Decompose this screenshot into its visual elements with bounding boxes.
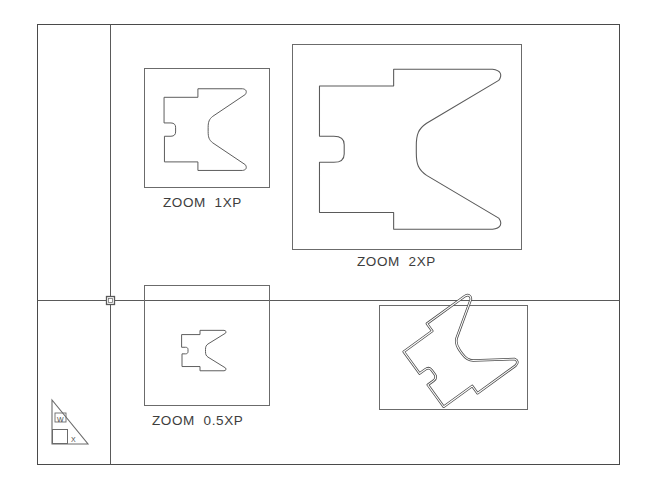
viewport-05xp-content bbox=[182, 330, 226, 370]
world-ucs-icon: W X bbox=[52, 400, 88, 444]
drawing-canvas: W X bbox=[0, 0, 650, 501]
construction-lines bbox=[38, 25, 620, 465]
viewport-rotated[interactable] bbox=[380, 294, 528, 414]
cad-drawing-area[interactable]: W X bbox=[0, 0, 650, 501]
viewport-05xp-label: ZOOM 0.5XP bbox=[152, 413, 243, 428]
viewport-1xp-content bbox=[164, 89, 246, 171]
viewport-2xp[interactable] bbox=[293, 45, 522, 250]
viewport-2xp-content bbox=[319, 69, 500, 229]
viewport-05xp[interactable] bbox=[145, 286, 270, 406]
sheet-border bbox=[38, 25, 620, 465]
viewport-1xp-frame[interactable] bbox=[145, 69, 270, 188]
ucs-origin-marker[interactable] bbox=[107, 297, 115, 305]
viewport-rotated-content bbox=[398, 294, 518, 414]
viewport-1xp-label: ZOOM 1XP bbox=[163, 195, 242, 210]
viewport-2xp-frame[interactable] bbox=[293, 45, 522, 250]
ucs-x-label: X bbox=[71, 436, 76, 443]
viewport-rotated-frame[interactable] bbox=[380, 306, 528, 410]
ucs-w-label: W bbox=[57, 416, 64, 423]
viewport-1xp[interactable] bbox=[145, 69, 270, 188]
ucs-origin-square bbox=[53, 430, 68, 444]
viewport-2xp-label: ZOOM 2XP bbox=[357, 254, 436, 269]
